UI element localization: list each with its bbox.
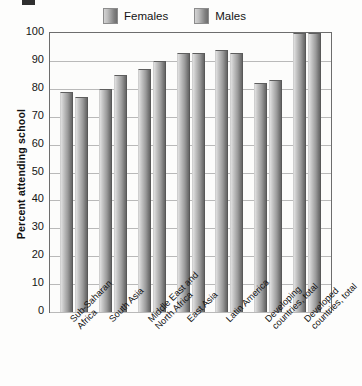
y-axis-tick-label: 90 [4, 53, 44, 65]
legend-swatch-females-icon [103, 8, 118, 24]
legend-label-males: Males [215, 10, 246, 22]
y-axis-tick-label: 10 [4, 276, 44, 288]
legend-item-females: Females [103, 8, 168, 24]
y-axis-tick-label: 30 [4, 220, 44, 232]
bar-series-container [50, 33, 331, 312]
y-axis-tick-label: 0 [4, 304, 44, 316]
legend-label-females: Females [124, 10, 168, 22]
y-axis-tick-label: 40 [4, 192, 44, 204]
y-axis-tick-label: 20 [4, 248, 44, 260]
chart-legend: Females Males [0, 8, 349, 24]
bar-group [55, 33, 94, 312]
bar-females [177, 53, 190, 312]
legend-item-males: Males [194, 8, 246, 24]
bar-males [75, 97, 88, 312]
y-axis-tick-label: 80 [4, 81, 44, 93]
y-axis-tick-label: 50 [4, 165, 44, 177]
bar-females [60, 92, 73, 312]
y-axis-tick-label: 70 [4, 109, 44, 121]
y-axis-tick-label: 60 [4, 137, 44, 149]
y-axis-tick-label: 100 [4, 25, 44, 37]
scan-artifact [22, 0, 35, 5]
bar-females [293, 33, 306, 312]
legend-swatch-males-icon [194, 8, 209, 24]
